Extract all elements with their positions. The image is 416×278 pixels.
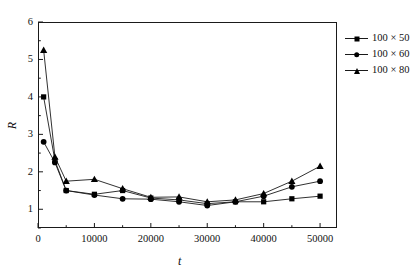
- legend-item: 100 × 80: [345, 65, 409, 76]
- x-tick-label: 20000: [138, 234, 164, 245]
- y-tick-label: 5: [18, 54, 33, 65]
- square-marker-icon: [354, 36, 359, 41]
- plot-frame: [38, 22, 337, 228]
- legend-swatch-square: [345, 33, 368, 44]
- y-axis-title: R: [5, 122, 20, 129]
- chart-legend: 100 × 50100 × 60100 × 80: [345, 33, 409, 76]
- legend-label: 100 × 60: [372, 49, 409, 60]
- legend-label: 100 × 80: [372, 65, 409, 76]
- legend-swatch-circle: [345, 49, 368, 60]
- legend-swatch-triangle: [345, 65, 368, 76]
- x-axis-title: t: [178, 254, 181, 269]
- y-tick-label: 6: [18, 17, 33, 28]
- y-tick-label: 1: [18, 204, 33, 215]
- y-tick-label: 3: [18, 129, 33, 140]
- x-tick-label: 10000: [81, 234, 107, 245]
- legend-item: 100 × 60: [345, 49, 409, 60]
- circle-marker-icon: [354, 52, 360, 58]
- x-tick-label: 30000: [194, 234, 220, 245]
- legend-item: 100 × 50: [345, 33, 409, 44]
- x-tick-label: 40000: [251, 234, 277, 245]
- legend-label: 100 × 50: [372, 33, 409, 44]
- triangle-marker-icon: [354, 68, 360, 74]
- x-tick-label: 0: [35, 234, 40, 245]
- x-tick-label: 50000: [307, 234, 333, 245]
- chart-figure: 123456 01000020000300004000050000 R t 10…: [0, 0, 416, 278]
- y-tick-label: 4: [18, 92, 33, 103]
- y-tick-label: 2: [18, 167, 33, 178]
